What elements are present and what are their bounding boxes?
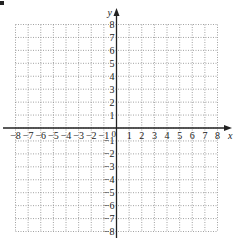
x-tick-label: 7: [202, 130, 207, 141]
x-tick-label: −3: [73, 130, 84, 141]
coordinate-plane: −8−7−6−5−4−3−2−112345678−8−7−6−5−4−3−2−1…: [0, 0, 237, 241]
x-axis-label: x: [227, 130, 233, 141]
y-tick-label: 6: [110, 45, 115, 56]
y-axis-arrow-icon: [114, 8, 120, 16]
x-tick-label: 3: [152, 130, 157, 141]
axes: [3, 8, 232, 238]
y-tick-label: −8: [104, 226, 115, 237]
y-tick-label: −4: [104, 174, 115, 185]
x-tick-label: 5: [177, 130, 182, 141]
y-tick-label: −3: [104, 161, 115, 172]
y-tick-label: 8: [110, 19, 115, 30]
y-tick-label: 2: [110, 97, 115, 108]
x-tick-label: 4: [165, 130, 170, 141]
x-tick-label: 2: [139, 130, 144, 141]
y-tick-label: −2: [104, 148, 115, 159]
x-tick-label: 8: [215, 130, 220, 141]
y-axis-label: y: [107, 7, 113, 18]
y-tick-label: 3: [110, 84, 115, 95]
origin-label: 0: [112, 129, 117, 139]
x-tick-label: −4: [61, 130, 72, 141]
x-tick-label: 1: [127, 130, 132, 141]
x-tick-label: −5: [48, 130, 59, 141]
y-tick-label: −6: [104, 200, 115, 211]
x-tick-label: 6: [190, 130, 195, 141]
x-tick-label: −2: [86, 130, 97, 141]
y-tick-label: −7: [104, 213, 115, 224]
y-tick-label: 1: [110, 110, 115, 121]
y-tick-label: −5: [104, 187, 115, 198]
x-tick-label: −6: [35, 130, 46, 141]
x-tick-label: −8: [10, 130, 21, 141]
y-tick-label: 4: [110, 71, 115, 82]
x-tick-label: −7: [23, 130, 34, 141]
y-tick-label: 7: [110, 32, 115, 43]
y-tick-label: 5: [110, 58, 115, 69]
